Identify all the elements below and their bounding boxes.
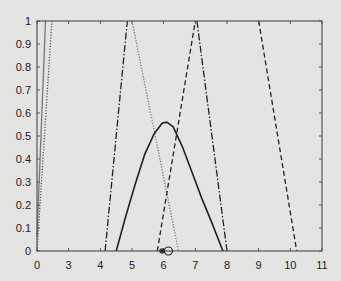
y-tick-label: 0.7 xyxy=(16,84,31,96)
series-dash-dot-triangle xyxy=(105,21,127,251)
x-tick-label: 10 xyxy=(284,259,296,271)
x-tick-label: 7 xyxy=(192,259,198,271)
series-dashed-triangle xyxy=(157,21,195,251)
y-tick-label: 0.8 xyxy=(16,61,31,73)
x-tick-label: 8 xyxy=(224,259,230,271)
x-tick-label: 3 xyxy=(66,259,72,271)
series-dash-dot-triangle xyxy=(197,21,227,251)
chart: 03456789101100.10.20.30.40.50.60.70.80.9… xyxy=(0,0,341,281)
y-tick-label: 0.4 xyxy=(16,153,31,165)
y-tick-label: 0.9 xyxy=(16,38,31,50)
series-layer xyxy=(37,21,297,251)
series-solid-curve xyxy=(116,122,223,251)
x-tick-label: 4 xyxy=(97,259,103,271)
x-tick-label: 0 xyxy=(34,259,40,271)
x-tick-label: 6 xyxy=(161,259,167,271)
x-tick-label: 9 xyxy=(256,259,262,271)
axes-box xyxy=(37,21,322,251)
y-tick-label: 0.3 xyxy=(16,176,31,188)
x-tick-label: 5 xyxy=(129,259,135,271)
y-tick-label: 1 xyxy=(25,15,31,27)
ticks-layer: 03456789101100.10.20.30.40.50.60.70.80.9… xyxy=(16,15,328,271)
series-dashed-right xyxy=(259,21,297,251)
y-tick-label: 0 xyxy=(25,245,31,257)
x-tick-label: 11 xyxy=(316,259,327,271)
y-tick-label: 0.2 xyxy=(16,199,31,211)
y-tick-label: 0.6 xyxy=(16,107,31,119)
series-gray-dotted-descending xyxy=(132,21,179,251)
y-tick-label: 0.1 xyxy=(16,222,31,234)
y-tick-label: 0.5 xyxy=(16,130,31,142)
